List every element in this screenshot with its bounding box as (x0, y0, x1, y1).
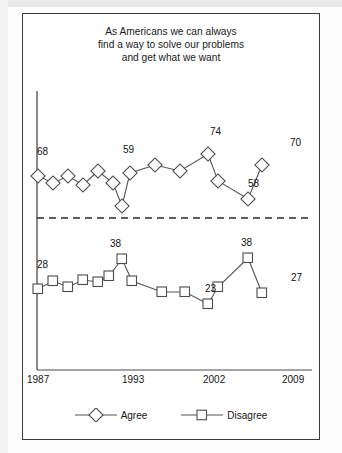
x-axis-tick-1993: 1993 (122, 374, 144, 385)
page-edge-top (0, 0, 342, 7)
agree-point-label-1987: 68 (37, 146, 48, 157)
chart-plot-area (22, 13, 320, 440)
agree-point-label-1993: 59 (123, 144, 134, 155)
disagree-series-line (38, 258, 262, 304)
x-axis-tick-1987: 1987 (27, 374, 49, 385)
agree-point-label-2002: 74 (210, 126, 221, 137)
disagree-point-label-1987: 28 (37, 259, 48, 270)
legend-entry-agree[interactable]: Agree (75, 408, 148, 422)
disagree-point-label-1994: 38 (110, 238, 121, 249)
diamond-marker-icon (75, 408, 117, 422)
agree-point-label-2006: 58 (248, 178, 259, 189)
page-edge-left (0, 0, 8, 453)
square-marker-icon (181, 408, 223, 422)
disagree-point-label-2009: 27 (291, 272, 302, 283)
disagree-series-markers (33, 253, 267, 309)
disagree-point-label-2002: 23 (205, 283, 216, 294)
disagree-point-label-2006: 38 (241, 237, 252, 248)
x-axis-tick-2009: 2009 (282, 374, 304, 385)
agree-series-markers (31, 147, 269, 213)
legend-label-agree: Agree (121, 410, 148, 421)
legend-entry-disagree[interactable]: Disagree (181, 408, 267, 422)
chart-legend: Agree Disagree (22, 408, 320, 422)
legend-label-disagree: Disagree (227, 410, 267, 421)
x-axis-tick-2002: 2002 (203, 374, 225, 385)
agree-point-label-2009: 70 (290, 137, 301, 148)
